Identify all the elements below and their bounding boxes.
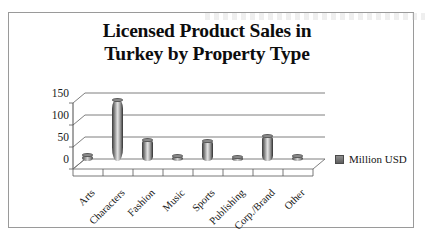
bar-other[interactable]	[292, 156, 303, 161]
bar-series-million-usd	[67, 91, 331, 183]
x-label-sports: Sports	[190, 187, 217, 214]
x-label-arts: Arts	[76, 187, 97, 208]
bar-cap-sports	[202, 139, 213, 143]
chart-title-line-2: Turkey by Property Type	[37, 42, 377, 65]
legend-swatch-icon	[335, 155, 344, 164]
y-axis-tick-50: 50	[35, 131, 69, 143]
bar-sports[interactable]	[202, 141, 213, 161]
bar-cap-other	[292, 154, 303, 158]
bar-cap-characters	[112, 98, 123, 102]
bar-characters[interactable]	[112, 100, 123, 161]
chart-container: Licensed Product Sales in Turkey by Prop…	[8, 12, 414, 228]
bar-cap-corp-brand	[262, 134, 273, 138]
x-label-other: Other	[282, 187, 307, 212]
bar-cap-fashion	[142, 138, 153, 142]
bar-arts[interactable]	[82, 155, 93, 161]
y-axis-tick-100: 100	[35, 109, 69, 121]
y-axis-tick-150: 150	[35, 87, 69, 99]
chart-title-line-1: Licensed Product Sales in	[37, 19, 377, 42]
x-axis-category-labels: Arts Characters Fashion Music Sports Pub…	[67, 185, 367, 241]
plot-area: 150 100 50 0	[31, 91, 331, 183]
bar-corp-brand[interactable]	[262, 136, 273, 161]
bar-publishing[interactable]	[232, 157, 243, 161]
chart-title: Licensed Product Sales in Turkey by Prop…	[37, 19, 377, 65]
chart-legend: Million USD	[335, 153, 407, 165]
bar-cap-arts	[82, 153, 93, 157]
bar-cap-publishing	[232, 155, 243, 159]
bar-music[interactable]	[172, 156, 183, 161]
y-axis-tick-0: 0	[35, 153, 69, 165]
x-label-fashion: Fashion	[125, 187, 156, 218]
bar-cap-music	[172, 154, 183, 158]
x-label-music: Music	[160, 187, 186, 213]
y-axis-tick-labels: 150 100 50 0	[31, 91, 69, 163]
legend-label-million-usd: Million USD	[349, 153, 407, 165]
bar-fashion[interactable]	[142, 140, 153, 161]
